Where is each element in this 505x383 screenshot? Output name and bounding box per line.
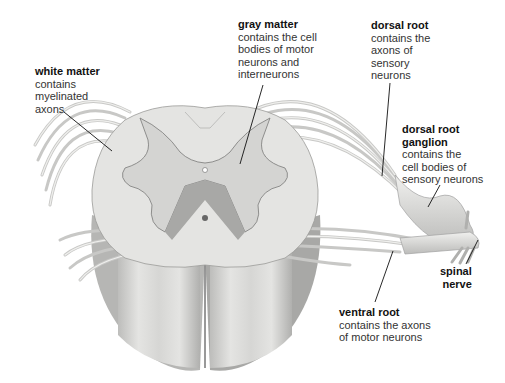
label-dorsal-root: dorsal root contains the axons of sensor… <box>371 19 430 82</box>
dorsal-root-ganglion-shape <box>395 175 479 263</box>
label-spinal-nerve: spinal nerve <box>440 265 472 290</box>
label-title: gray matter <box>238 18 317 31</box>
label-title: white matter <box>35 65 100 78</box>
label-title: dorsal root ganglion <box>402 123 483 148</box>
leader-ventral-root <box>375 251 393 302</box>
label-title: dorsal root <box>371 19 430 32</box>
label-desc: contains the cell bodies of motor neuron… <box>238 31 317 81</box>
label-desc: contains the axons of sensory neurons <box>371 32 430 82</box>
label-title: ventral root <box>339 306 431 319</box>
label-title: spinal nerve <box>440 265 472 290</box>
label-white-matter: white matter contains myelinated axons <box>35 65 100 115</box>
label-desc: contains the axons of motor neurons <box>339 319 431 344</box>
label-desc: contains myelinated axons <box>35 78 100 116</box>
label-gray-matter: gray matter contains the cell bodies of … <box>238 18 317 81</box>
label-ventral-root: ventral root contains the axons of motor… <box>339 306 431 344</box>
label-dorsal-root-ganglion: dorsal root ganglion contains the cell b… <box>402 123 483 186</box>
label-desc: contains the cell bodies of sensory neur… <box>402 148 483 186</box>
